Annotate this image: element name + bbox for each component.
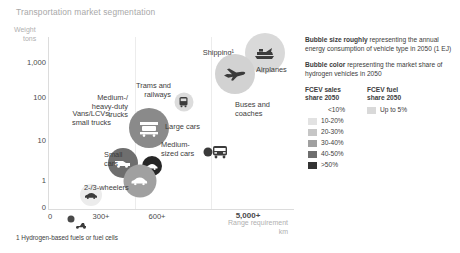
scooter-icon bbox=[75, 215, 87, 233]
bubble-airplanes[interactable] bbox=[215, 54, 255, 94]
legend-label: >50% bbox=[321, 161, 338, 169]
y-tick: 0 bbox=[2, 203, 46, 212]
bubble-label-2-3-wheelers: 2-/3-wheelers bbox=[84, 184, 144, 193]
legend-label: 40-50% bbox=[321, 150, 344, 158]
y-tick: 1 bbox=[2, 176, 46, 185]
bubble-label-medium-cars: Medium- sized cars bbox=[161, 141, 217, 158]
bubble-label-small-cars: Small cars bbox=[104, 151, 136, 168]
legend-item-sales[interactable]: 40-50% bbox=[308, 150, 344, 158]
car-icon bbox=[84, 192, 98, 199]
bubble-label-buses: Buses and coaches bbox=[235, 101, 285, 118]
legend-item-sales[interactable]: >50% bbox=[308, 161, 338, 169]
legend: Bubble size roughly representing the ann… bbox=[305, 36, 455, 158]
x-tick: 0 bbox=[48, 212, 52, 221]
legend-label: <10% bbox=[328, 106, 345, 114]
legend-swatch bbox=[308, 118, 317, 125]
footnote: 1 Hydrogen-based fuels or fuel cells bbox=[16, 234, 118, 241]
x-axis-title-text: Range requirement bbox=[228, 219, 288, 226]
bubble-label-vans-lcvs: Vans/LCVs, small trucks bbox=[47, 110, 111, 127]
bubble-2-3-wheelers[interactable] bbox=[68, 216, 75, 223]
bubble-trams[interactable] bbox=[174, 93, 193, 112]
legend-note-color: Bubble color representing the market sha… bbox=[305, 61, 455, 78]
plot-area: Shipping¹ Airplanes Trams and railways M… bbox=[48, 37, 294, 210]
legend-note-size-bold: Bubble size roughly bbox=[305, 36, 368, 43]
legend-item-fuel[interactable]: Up to 5% bbox=[367, 106, 407, 114]
x-axis-unit: km bbox=[196, 227, 288, 236]
x-tick: 300+ bbox=[92, 212, 109, 221]
y-tick: 10 bbox=[2, 136, 46, 145]
legend-swatch bbox=[367, 107, 376, 114]
legend-note-color-bold: Bubble color bbox=[305, 61, 345, 68]
x-tick: 600+ bbox=[148, 212, 165, 221]
legend-swatch bbox=[308, 140, 317, 147]
legend-col1-header: FCEV sales share 2050 bbox=[305, 86, 341, 102]
legend-swatch bbox=[308, 162, 317, 169]
tram-icon bbox=[179, 97, 189, 108]
y-tick: 1,000 bbox=[2, 58, 46, 67]
legend-note-size: Bubble size roughly representing the ann… bbox=[305, 36, 455, 53]
truck-icon bbox=[139, 120, 159, 137]
legend-item-sales[interactable]: <10% bbox=[315, 106, 345, 114]
ship-icon bbox=[254, 46, 275, 60]
airplane-icon bbox=[223, 66, 247, 81]
y-axis-ticks: 1,000 100 10 1 0 bbox=[0, 0, 46, 253]
bubble-label-airplanes: Airplanes bbox=[256, 66, 304, 75]
bubble-medium-cars[interactable] bbox=[123, 165, 156, 198]
legend-label: Up to 5% bbox=[380, 106, 407, 114]
legend-swatch bbox=[308, 129, 317, 136]
legend-item-sales[interactable]: 10-20% bbox=[308, 117, 344, 125]
legend-item-sales[interactable]: 20-30% bbox=[308, 128, 344, 136]
legend-label: 20-30% bbox=[321, 128, 344, 136]
legend-col2-header: FCEV fuel share 2050 bbox=[367, 86, 401, 102]
legend-swatch bbox=[315, 107, 324, 114]
legend-item-sales[interactable]: 30-40% bbox=[308, 139, 344, 147]
chart-canvas: Transportation market segmentation Weigh… bbox=[0, 0, 460, 253]
legend-label: 10-20% bbox=[321, 117, 344, 125]
y-tick: 100 bbox=[2, 93, 46, 102]
legend-label: 30-40% bbox=[321, 139, 344, 147]
bubble-label-large-cars: Large cars bbox=[165, 123, 217, 132]
legend-swatch bbox=[308, 151, 317, 158]
x-axis-title: Range requirement km bbox=[196, 218, 288, 236]
